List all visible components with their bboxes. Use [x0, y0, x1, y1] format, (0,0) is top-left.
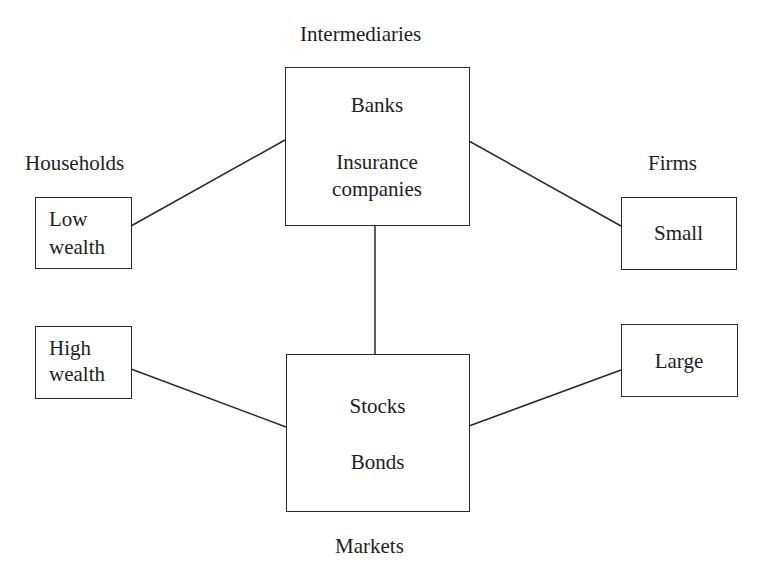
link-low-wealth-intermediaries: [131, 140, 285, 226]
banks-label: Banks: [286, 92, 468, 118]
link-markets-large: [469, 370, 621, 426]
companies-label: companies: [286, 176, 468, 202]
small-label: Small: [622, 220, 735, 246]
small-firms-box: Small: [621, 197, 737, 270]
insurance-label: Insurance: [286, 149, 468, 175]
markets-title: Markets: [335, 534, 404, 558]
high-wealth-box: High wealth: [35, 326, 132, 399]
high-wealth-line2: wealth: [49, 361, 105, 387]
intermediaries-title: Intermediaries: [300, 22, 421, 46]
bonds-label: Bonds: [287, 449, 468, 475]
markets-box: Stocks Bonds: [286, 354, 470, 512]
households-title: Households: [25, 151, 124, 175]
link-intermediaries-small: [469, 141, 621, 226]
large-label: Large: [622, 348, 736, 374]
firms-title: Firms: [648, 151, 697, 175]
large-firms-box: Large: [621, 324, 738, 397]
low-wealth-box: Low wealth: [35, 197, 132, 269]
high-wealth-line1: High: [49, 335, 91, 361]
stocks-label: Stocks: [287, 393, 468, 419]
low-wealth-line1: Low: [49, 206, 88, 232]
low-wealth-line2: wealth: [49, 234, 105, 260]
intermediaries-box: Banks Insurance companies: [285, 67, 470, 226]
link-high-wealth-markets: [131, 369, 286, 427]
